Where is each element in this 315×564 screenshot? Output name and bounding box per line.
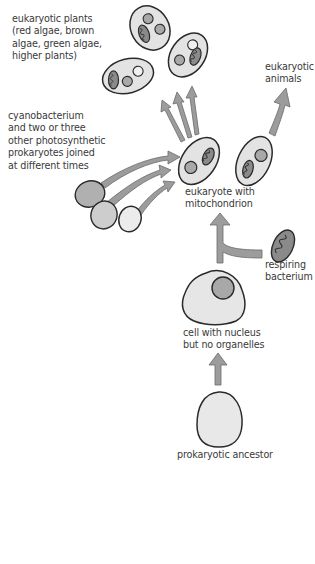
label-line: eukaryote with	[185, 186, 255, 198]
label-line: cyanobacterium	[8, 110, 105, 122]
label-line: eukaryotic plants	[12, 13, 102, 25]
label-eukaryotic-plants: eukaryotic plants (red algae, brown alga…	[12, 13, 102, 63]
label-line: but no organelles	[183, 339, 264, 351]
label-eukaryote-with-mitochondrion: eukaryote with mitochondrion	[185, 186, 255, 211]
label-eukaryotic-animals: eukaryotic animals	[265, 61, 314, 86]
label-line: animals	[265, 73, 314, 85]
label-line: prokaryotic ancestor	[177, 449, 273, 461]
plant-cell-top	[122, 0, 178, 57]
label-line: (red algae, brown	[12, 25, 102, 37]
label-respiring-bacterium: respiring bacterium	[265, 259, 313, 284]
label-line: mitochondrion	[185, 198, 255, 210]
plant-cell-left	[98, 53, 157, 99]
label-cyanobacterium: cyanobacterium and two or three other ph…	[8, 110, 105, 172]
label-line: cell with nucleus	[183, 327, 264, 339]
label-line: respiring	[265, 259, 313, 271]
label-line: and two or three	[8, 122, 105, 134]
label-line: eukaryotic	[265, 61, 314, 73]
label-cell-with-nucleus: cell with nucleus but no organelles	[183, 327, 264, 352]
eukaryote-cell-right	[229, 131, 280, 192]
label-prokaryotic-ancestor: prokaryotic ancestor	[177, 449, 273, 461]
arrows-to-plants	[161, 86, 199, 142]
label-line: prokaryotes joined	[8, 147, 105, 159]
label-line: at different times	[8, 160, 105, 172]
label-line: bacterium	[265, 271, 313, 283]
arrow-ancestor-to-nucleus-cell	[209, 353, 227, 385]
label-line: algae, green algae,	[12, 38, 102, 50]
prokaryotic-ancestor-cell	[197, 392, 242, 447]
nucleus-cell	[182, 271, 244, 325]
arrow-nucleus-to-eukaryote	[210, 213, 262, 263]
label-line: higher plants)	[12, 50, 102, 62]
label-line: other photosynthetic	[8, 135, 105, 147]
arrow-to-animals	[269, 88, 290, 136]
eukaryote-cell-left	[170, 130, 228, 192]
